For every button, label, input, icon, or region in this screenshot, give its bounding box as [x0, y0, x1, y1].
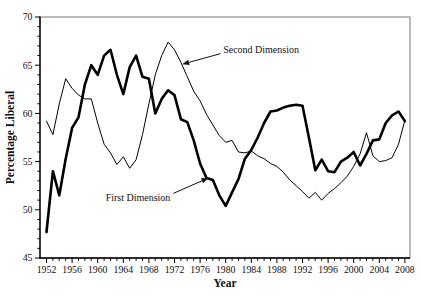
x-tick-label: 2000	[344, 264, 364, 275]
x-tick-label: 2008	[395, 264, 415, 275]
y-tick-label: 55	[23, 156, 33, 167]
y-tick-label: 50	[23, 204, 33, 215]
x-tick-label: 1956	[62, 264, 82, 275]
axes: 4550556065701952195619601964196819721976…	[23, 11, 415, 274]
x-tick-label: 1952	[37, 264, 57, 275]
x-tick-label: 1984	[242, 264, 262, 275]
x-tick-label: 1996	[318, 264, 338, 275]
first-dimension-line	[47, 50, 405, 232]
x-tick-label: 1988	[267, 264, 287, 275]
y-tick-label: 60	[23, 108, 33, 119]
y-tick-label: 45	[23, 252, 33, 263]
annotation-arrowhead	[201, 178, 208, 183]
line-chart-figure: 4550556065701952195619601964196819721976…	[0, 0, 423, 295]
annotation-arrow-line	[189, 54, 221, 63]
x-tick-label: 1976	[190, 264, 210, 275]
x-tick-label: 1960	[88, 264, 108, 275]
y-axis-title: Percentage Liberal	[4, 91, 17, 184]
line-chart: 4550556065701952195619601964196819721976…	[0, 0, 423, 295]
x-tick-label: 1972	[165, 264, 185, 275]
second-dimension-label: Second Dimension	[223, 44, 299, 55]
first-dimension-label: First Dimension	[106, 192, 171, 203]
series-lines	[47, 42, 405, 232]
x-tick-label: 1964	[114, 264, 134, 275]
y-tick-label: 70	[23, 11, 33, 22]
annotation-arrowhead	[182, 60, 189, 65]
annotations: Second DimensionFirst Dimension	[106, 44, 299, 202]
x-tick-label: 2004	[370, 264, 390, 275]
x-tick-label: 1992	[293, 264, 313, 275]
x-tick-label: 1980	[216, 264, 236, 275]
annotation-arrow-line	[173, 181, 202, 194]
x-axis-title: Year	[214, 277, 237, 289]
y-tick-label: 65	[23, 60, 33, 71]
x-tick-label: 1968	[139, 264, 159, 275]
